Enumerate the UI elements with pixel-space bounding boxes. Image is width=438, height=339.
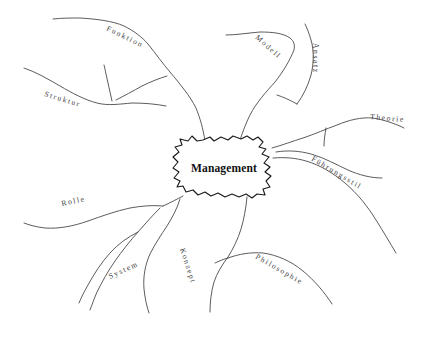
branch-label-fuehrungsstil: Führungsstil: [310, 154, 364, 191]
branch-label-struktur: Struktur: [43, 89, 82, 109]
branch-line-ansatz-stem: [277, 95, 297, 104]
branch-line-philosophie-arc: [228, 253, 332, 304]
branch-label-theorie: Theorie: [370, 112, 405, 124]
branch-line-philosophie-stem: [215, 258, 228, 263]
branch-label-rolle: Rolle: [61, 194, 87, 208]
branch-line-theorie: [272, 118, 404, 148]
branch-line-system: [90, 208, 160, 310]
branch-line-rolle: [24, 206, 163, 229]
branch-label-funktion: Funktion: [105, 24, 145, 50]
branch-label-system: System: [107, 259, 140, 281]
mindmap-canvas: Management Funktion Struktur Modell Ansa…: [0, 0, 438, 339]
branch-line-rolle-stem: [163, 196, 183, 206]
branch-label-ansatz: Ansatz: [311, 43, 320, 74]
branch-label-konzept: Konzept: [178, 247, 198, 285]
branch-line-struktur-stem: [104, 65, 112, 101]
branch-line-modell: [226, 32, 294, 140]
branch-line-funktion-stem: [116, 76, 167, 100]
branch-line-konzept: [144, 199, 180, 313]
mindmap-diagram: Management Funktion Struktur Modell Ansa…: [0, 0, 438, 339]
branch-line-theorie-hook: [324, 128, 326, 146]
center-node-label: Management: [191, 162, 257, 175]
branch-line-struktur: [24, 68, 166, 106]
branch-line-ansatz: [297, 24, 313, 104]
branch-label-modell: Modell: [254, 33, 283, 61]
